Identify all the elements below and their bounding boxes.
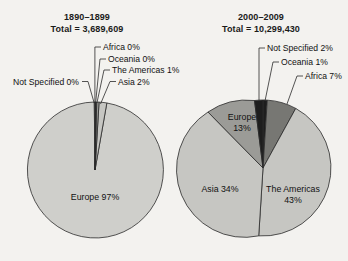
callout-left-oceania: Oceania 0% (108, 54, 155, 64)
callout-left-africa: Africa 0% (103, 42, 140, 52)
callout-left-asia: Asia 2% (118, 77, 150, 87)
pie-right: Not Specified 2% Oceania 1% Africa 7% Eu… (174, 0, 348, 261)
leader-right-not-specified (259, 48, 265, 101)
leader-left-asia (101, 82, 117, 105)
callout-left-not-specified: Not Specified 0% (13, 77, 79, 87)
chart-panel-1890-1899: 1890–1899 Total = 3,689,609 (0, 0, 174, 261)
slice-label-right-europe-line2: 13% (233, 123, 251, 133)
slice-label-right-europe-line1: Europe (228, 112, 256, 122)
callout-right-not-specified: Not Specified 2% (267, 43, 333, 53)
pie-left: Africa 0% Oceania 0% The Americas 1% Asi… (0, 0, 174, 261)
leader-right-africa (287, 76, 303, 104)
leader-left-africa (95, 47, 101, 103)
slice-label-left-europe: Europe 97% (71, 192, 120, 202)
chart-panel-2000-2009: 2000–2009 Total = 10,299,430 Not Specifi… (174, 0, 348, 261)
leader-right-oceania (265, 62, 279, 101)
slice-label-right-americas-line2: 43% (284, 195, 302, 205)
pie-chart-figure: 1890–1899 Total = 3,689,609 (0, 0, 348, 261)
callout-right-africa: Africa 7% (305, 71, 342, 81)
leader-left-oceania (96, 59, 106, 103)
callout-left-americas: The Americas 1% (112, 65, 180, 75)
slice-label-right-asia: Asia 34% (201, 184, 238, 194)
slice-label-right-americas-line1: The Americas (266, 184, 320, 194)
callout-right-oceania: Oceania 1% (281, 57, 328, 67)
leader-left-not-specified (82, 82, 94, 104)
